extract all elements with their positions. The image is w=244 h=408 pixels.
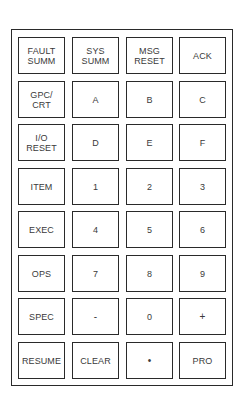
key-resume[interactable]: RESUME <box>18 342 65 379</box>
key-9[interactable]: 9 <box>179 255 226 292</box>
key-gpc-crt[interactable]: GPC/ CRT <box>18 81 65 118</box>
keyboard-unit-panel: FAULT SUMM SYS SUMM MSG RESET ACK GPC/ C… <box>11 29 233 386</box>
key-item[interactable]: ITEM <box>18 168 65 205</box>
key-b[interactable]: B <box>126 81 173 118</box>
key-minus[interactable]: - <box>72 298 119 335</box>
key-6[interactable]: 6 <box>179 211 226 248</box>
key-msg-reset[interactable]: MSG RESET <box>126 37 173 74</box>
key-0[interactable]: 0 <box>126 298 173 335</box>
key-sys-summ[interactable]: SYS SUMM <box>72 37 119 74</box>
key-io-reset[interactable]: I/O RESET <box>18 124 65 161</box>
key-exec[interactable]: EXEC <box>18 211 65 248</box>
key-a[interactable]: A <box>72 81 119 118</box>
key-plus[interactable]: + <box>179 298 226 335</box>
key-spec[interactable]: SPEC <box>18 298 65 335</box>
key-pro[interactable]: PRO <box>179 342 226 379</box>
key-5[interactable]: 5 <box>126 211 173 248</box>
key-1[interactable]: 1 <box>72 168 119 205</box>
key-clear[interactable]: CLEAR <box>72 342 119 379</box>
key-ops[interactable]: OPS <box>18 255 65 292</box>
key-fault-summ[interactable]: FAULT SUMM <box>18 37 65 74</box>
key-3[interactable]: 3 <box>179 168 226 205</box>
key-d[interactable]: D <box>72 124 119 161</box>
key-c[interactable]: C <box>179 81 226 118</box>
key-e[interactable]: E <box>126 124 173 161</box>
key-2[interactable]: 2 <box>126 168 173 205</box>
key-decimal-point[interactable]: • <box>126 342 173 379</box>
key-4[interactable]: 4 <box>72 211 119 248</box>
key-ack[interactable]: ACK <box>179 37 226 74</box>
key-7[interactable]: 7 <box>72 255 119 292</box>
key-8[interactable]: 8 <box>126 255 173 292</box>
key-f[interactable]: F <box>179 124 226 161</box>
